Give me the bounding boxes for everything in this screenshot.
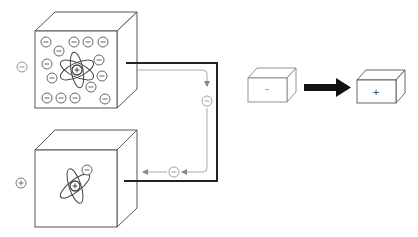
- electron-icon: [42, 59, 52, 69]
- target-box-label: +: [372, 87, 380, 97]
- electron-icon: [54, 46, 64, 56]
- electron-icon: [94, 55, 104, 65]
- electron-icon: [86, 82, 96, 92]
- flowing-electron-icon: [169, 167, 179, 177]
- electron-icon: [56, 93, 66, 103]
- source-box-label: –: [265, 84, 270, 94]
- electron-icon: [100, 94, 110, 104]
- negative-charge-label: [17, 62, 27, 72]
- electron-icon: [98, 37, 108, 47]
- positive-charge-label: [16, 178, 26, 188]
- flowing-electron-icon: [202, 96, 212, 106]
- electron-flow-arrow: [137, 70, 207, 86]
- big-right-arrow-icon: [304, 78, 351, 97]
- electron-icon: [42, 93, 52, 103]
- diagram-canvas: – +: [0, 0, 418, 237]
- electron-icon: [83, 37, 93, 47]
- electron-icon: [47, 73, 57, 83]
- conducting-wire: [124, 63, 217, 181]
- electron-flow-arrow: [182, 108, 207, 172]
- electron-icon: [41, 37, 51, 47]
- electron-icon: [70, 93, 80, 103]
- positive-block: [35, 130, 137, 227]
- electron-icon: [69, 37, 79, 47]
- electron-icon: [97, 71, 107, 81]
- target-box: [357, 70, 405, 103]
- electron-icon: [82, 165, 92, 175]
- source-box: [248, 68, 296, 102]
